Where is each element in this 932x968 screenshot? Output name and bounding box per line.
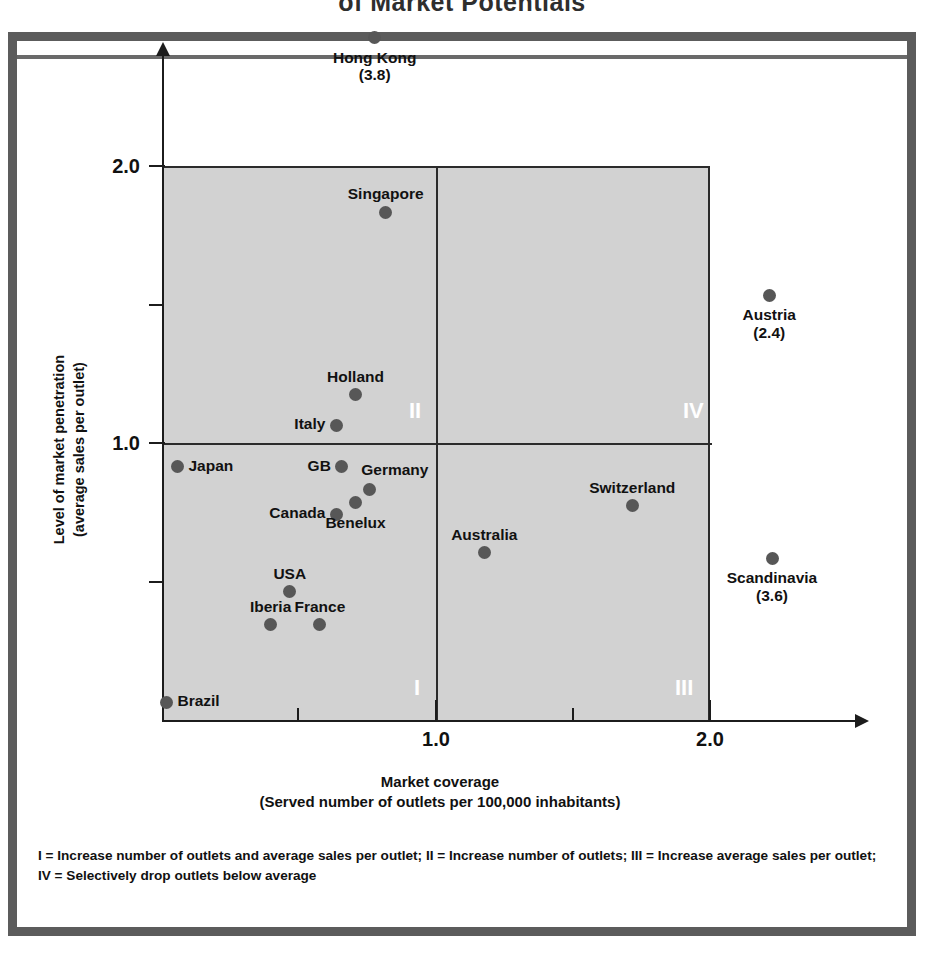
point-label-name: Germany [361, 461, 428, 479]
data-point-label-germany: Germany [361, 461, 428, 479]
data-point-label-japan: Japan [188, 457, 233, 475]
title-divider [17, 55, 907, 59]
point-label-name: Switzerland [589, 479, 675, 497]
y-tick-minor [149, 581, 163, 583]
data-point-label-italy: Italy [294, 415, 325, 433]
point-label-name: Singapore [348, 185, 424, 203]
data-point-label-singapore: Singapore [348, 185, 424, 203]
y-axis-arrow-icon [156, 42, 170, 56]
point-label-value: (2.4) [743, 324, 796, 342]
point-label-value: (3.8) [333, 66, 417, 84]
y-axis-line [162, 52, 164, 722]
data-point-label-switzerland: Switzerland [589, 479, 675, 497]
y-axis-title: Level of market penetration (average sal… [50, 285, 89, 615]
x-tick-minor [572, 708, 574, 722]
point-label-name: USA [273, 565, 306, 583]
y-tick-label: 2.0 [74, 155, 140, 178]
x-axis-arrow-icon [855, 714, 869, 728]
data-point-label-scandinavia: Scandinavia(3.6) [727, 569, 817, 605]
data-point-label-australia: Australia [451, 526, 517, 544]
y-tick-minor [149, 304, 163, 306]
y-tick-major [149, 165, 165, 167]
data-point-label-france: France [294, 598, 345, 616]
x-tick-major [435, 700, 437, 722]
data-point-label-gb: GB [308, 457, 331, 475]
data-point-switzerland[interactable] [626, 499, 639, 512]
data-point-label-hong-kong: Hong Kong(3.8) [333, 49, 417, 85]
y-axis-title-main: Level of market penetration [50, 285, 70, 615]
quadrant-label-IV: IV [683, 398, 704, 424]
data-point-label-canada: Canada [269, 504, 325, 522]
quadrant-label-III: III [675, 675, 693, 701]
data-point-brazil[interactable] [160, 696, 173, 709]
data-point-singapore[interactable] [379, 206, 392, 219]
data-point-scandinavia[interactable] [766, 552, 779, 565]
x-axis-title: Market coverage (Served number of outlet… [110, 772, 770, 813]
x-axis-line [163, 720, 857, 722]
x-tick-label: 1.0 [396, 728, 476, 751]
x-tick-label: 2.0 [670, 728, 750, 751]
point-label-name: Hong Kong [333, 49, 417, 67]
x-axis-title-sub: (Served number of outlets per 100,000 in… [110, 792, 770, 812]
point-label-name: Iberia [250, 598, 291, 616]
point-label-name: Australia [451, 526, 517, 544]
point-label-name: Holland [327, 368, 384, 386]
quadrant-divider-horizontal [163, 443, 712, 445]
data-point-label-iberia: Iberia [250, 598, 291, 616]
data-point-austria[interactable] [763, 289, 776, 302]
data-point-label-austria: Austria(2.4) [743, 306, 796, 342]
x-axis-title-main: Market coverage [110, 772, 770, 792]
quadrant-label-I: I [414, 675, 420, 701]
point-label-value: (3.6) [727, 587, 817, 605]
point-label-name: Japan [188, 457, 233, 475]
point-label-name: Austria [743, 306, 796, 324]
point-label-name: Scandinavia [727, 569, 817, 587]
y-axis-title-sub: (average sales per outlet) [70, 285, 90, 615]
point-label-name: Benelux [325, 514, 385, 532]
y-tick-major [149, 442, 165, 444]
data-point-label-usa: USA [273, 565, 306, 583]
data-point-italy[interactable] [330, 419, 343, 432]
point-label-name: Italy [294, 415, 325, 433]
data-point-label-benelux: Benelux [325, 514, 385, 532]
point-label-name: GB [308, 457, 331, 475]
x-tick-major [709, 700, 711, 722]
chart-title: of Market Potentials [17, 0, 907, 14]
point-label-name: France [294, 598, 345, 616]
x-tick-minor [297, 708, 299, 722]
data-point-label-holland: Holland [327, 368, 384, 386]
quadrant-label-II: II [409, 398, 421, 424]
point-label-name: Canada [269, 504, 325, 522]
data-point-label-brazil: Brazil [177, 692, 219, 710]
footnote-text: I = Increase number of outlets and avera… [38, 846, 886, 887]
point-label-name: Brazil [177, 692, 219, 710]
data-point-germany[interactable] [363, 483, 376, 496]
